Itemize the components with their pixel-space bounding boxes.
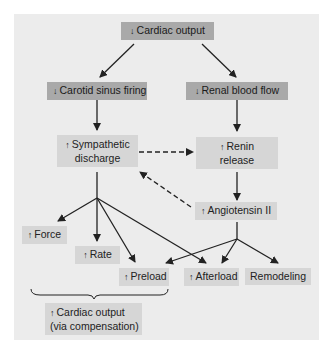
node-label: Force [34, 228, 61, 240]
node-remodeling: Remodeling [245, 268, 311, 285]
arrow-up-icon: ↑ [65, 139, 70, 152]
node-label: Afterload [196, 270, 238, 282]
node-rate: ↑Rate [75, 246, 120, 264]
node-label: Carotid sinus firing [60, 84, 147, 96]
node-label: Angiotensin II [207, 204, 271, 216]
node-sympathetic-discharge: ↑Sympathetic discharge [57, 135, 138, 167]
node-label-line2: discharge [62, 152, 133, 165]
arrow-down-icon: ↓ [53, 85, 58, 98]
node-label: Remodeling [250, 270, 306, 282]
arrow-down-icon: ↓ [130, 25, 135, 38]
node-afterload: ↑Afterload [184, 268, 239, 286]
node-force: ↑Force [22, 226, 67, 244]
arrow-up-icon: ↑ [124, 271, 129, 284]
node-label: Rate [90, 248, 112, 260]
node-cardiac-output-compensation: ↑Cardiac output (via compensation) [45, 303, 142, 335]
node-cardiac-output: ↓Cardiac output [121, 22, 214, 40]
node-renal-blood-flow: ↓Renal blood flow [186, 82, 288, 100]
arrow-up-icon: ↑ [189, 271, 194, 284]
node-label-line2: release [201, 154, 273, 167]
node-preload: ↑Preload [119, 268, 169, 286]
arrow-up-icon: ↑ [201, 205, 206, 218]
arrow-down-icon: ↓ [195, 85, 200, 98]
arrow-up-icon: ↑ [83, 249, 88, 262]
node-label-line1: Cardiac output [57, 306, 125, 318]
arrow-up-icon: ↑ [28, 229, 33, 242]
node-label: Preload [131, 270, 167, 282]
node-label: Cardiac output [137, 24, 205, 36]
node-label: Renal blood flow [201, 84, 279, 96]
node-renin-release: ↑Renin release [196, 137, 278, 169]
arrow-up-icon: ↑ [50, 307, 55, 320]
node-label-line2: (via compensation) [50, 320, 137, 333]
connector-lines [0, 0, 332, 350]
node-angiotensin-ii: ↑Angiotensin II [195, 202, 277, 220]
node-label-line1: Renin [227, 140, 254, 152]
node-carotid-sinus-firing: ↓Carotid sinus firing [47, 82, 147, 100]
arrow-up-icon: ↑ [220, 141, 225, 154]
node-label-line1: Sympathetic [72, 138, 130, 150]
